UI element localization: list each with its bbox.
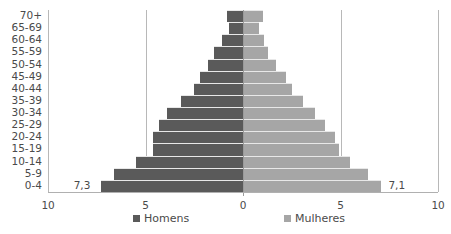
x-tick-label: 0 [240,199,247,211]
bar-mulheres [243,156,350,168]
bar-mulheres [243,71,286,83]
y-tick-label: 15-19 [2,142,42,154]
bar-mulheres [243,10,263,22]
bar-homens [227,10,243,22]
population-pyramid-chart: 0-45-910-1415-1920-2425-2930-3435-3940-4… [0,0,451,234]
y-tick-label: 10-14 [2,155,42,167]
bar-mulheres [243,180,381,192]
legend-swatch-mulheres [284,215,291,222]
bar-homens [214,46,243,58]
y-tick-label: 55-59 [2,45,42,57]
bar-mulheres [243,107,315,119]
legend-item-mulheres: Mulheres [284,212,345,225]
bar-homens [136,156,243,168]
bar-homens [167,107,243,119]
bar-homens [101,180,243,192]
bar-homens [229,22,243,34]
y-tick-label: 45-49 [2,70,42,82]
y-tick-label: 60-64 [2,33,42,45]
bar-homens [114,168,243,180]
legend-swatch-homens [133,215,140,222]
y-tick-label: 40-44 [2,82,42,94]
legend-label-homens: Homens [144,212,189,225]
bar-mulheres [243,143,339,155]
data-label-mulheres-0-4: 7,1 [388,179,405,191]
bar-homens [153,131,243,143]
bar-homens [194,83,243,95]
bar-homens [222,34,243,46]
gridline [48,10,49,192]
data-label-homens-0-4: 7,3 [74,179,91,191]
y-tick-label: 0-4 [2,179,42,191]
legend-label-mulheres: Mulheres [295,212,345,225]
x-axis [48,192,438,193]
y-tick-label: 30-34 [2,106,42,118]
bar-homens [181,95,243,107]
y-tick-label: 65-69 [2,21,42,33]
legend-item-homens: Homens [133,212,189,225]
bar-mulheres [243,46,268,58]
x-tick-label: 5 [142,199,149,211]
x-tick-label: 10 [431,199,444,211]
y-tick-label: 5-9 [2,167,42,179]
bar-mulheres [243,83,292,95]
bar-mulheres [243,131,335,143]
bar-mulheres [243,34,264,46]
y-tick-label: 35-39 [2,94,42,106]
y-tick-label: 25-29 [2,118,42,130]
bar-homens [159,119,243,131]
bar-homens [200,71,243,83]
bar-mulheres [243,22,259,34]
center-axis [243,10,244,196]
y-tick-label: 20-24 [2,130,42,142]
x-tick-label: 5 [337,199,344,211]
y-tick-label: 70+ [2,9,42,21]
bar-homens [208,59,243,71]
x-tick-label: 10 [41,199,54,211]
bar-mulheres [243,59,276,71]
bar-homens [153,143,243,155]
gridline [438,10,439,192]
bar-mulheres [243,168,368,180]
bar-mulheres [243,119,325,131]
y-tick-label: 50-54 [2,58,42,70]
bar-mulheres [243,95,303,107]
